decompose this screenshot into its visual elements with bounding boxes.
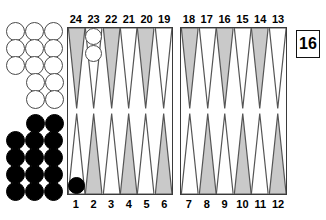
point-number-20: 20: [138, 12, 156, 26]
point-number-13: 13: [269, 12, 287, 26]
point-triangle-10: [234, 111, 252, 194]
point-triangle-1: [68, 111, 85, 194]
checker-pile-row: [6, 90, 64, 107]
point-triangle-5: [137, 111, 154, 194]
point-15[interactable]: [234, 28, 252, 111]
point-11[interactable]: [251, 111, 269, 194]
point-numbers-top-left: 242322212019: [67, 12, 173, 26]
point-23[interactable]: [85, 28, 102, 111]
point-number-17: 17: [198, 12, 216, 26]
quadrant-top-right: [181, 28, 286, 111]
point-20[interactable]: [137, 28, 154, 111]
point-13[interactable]: [269, 28, 287, 111]
quadrant-bottom-left: [68, 111, 172, 194]
point-triangle-14: [251, 28, 269, 111]
score-box-value: 16: [299, 35, 317, 53]
point-number-24: 24: [67, 12, 85, 26]
point-number-12: 12: [269, 197, 287, 211]
point-triangle-6: [155, 111, 172, 194]
point-triangle-22: [103, 28, 120, 111]
checker-pile-row: [6, 114, 64, 131]
point-24[interactable]: [68, 28, 85, 111]
point-triangle-4: [120, 111, 137, 194]
point-number-6: 6: [155, 197, 173, 211]
checker-pile-row: [6, 131, 64, 148]
backgammon-diagram: 242322212019 181716151413 123456 7891011…: [0, 0, 326, 220]
point-number-22: 22: [102, 12, 120, 26]
point-17[interactable]: [199, 28, 217, 111]
board-frame: [67, 27, 287, 195]
point-triangle-9: [216, 111, 234, 194]
quadrant-bottom-right: [181, 111, 286, 194]
point-triangle-19: [155, 28, 172, 111]
point-triangle-24: [68, 28, 85, 111]
checker-black[interactable]: [25, 182, 44, 201]
checker-pile-row: [6, 22, 64, 39]
board-half-right: [180, 27, 287, 195]
checker-pile-row: [6, 73, 64, 90]
point-2[interactable]: [85, 111, 102, 194]
point-18[interactable]: [181, 28, 199, 111]
board-half-left: [67, 27, 173, 195]
point-number-9: 9: [216, 197, 234, 211]
point-number-21: 21: [120, 12, 138, 26]
point-number-19: 19: [155, 12, 173, 26]
point-number-4: 4: [120, 197, 138, 211]
point-number-14: 14: [251, 12, 269, 26]
point-numbers-bottom-right: 789101112: [180, 197, 287, 211]
checker-black[interactable]: [6, 182, 25, 201]
point-triangle-3: [103, 111, 120, 194]
point-12[interactable]: [269, 111, 287, 194]
point-triangle-13: [269, 28, 287, 111]
point-21[interactable]: [120, 28, 137, 111]
point-number-16: 16: [216, 12, 234, 26]
point-10[interactable]: [234, 111, 252, 194]
point-number-11: 11: [251, 197, 269, 211]
off-board-black-checkers: [6, 114, 64, 199]
point-4[interactable]: [120, 111, 137, 194]
point-triangle-20: [137, 28, 154, 111]
checker-pile-row: [6, 56, 64, 73]
point-1[interactable]: [68, 111, 85, 194]
checker-pile-row: [6, 39, 64, 56]
point-numbers-bottom-left: 123456: [67, 197, 173, 211]
checker-white[interactable]: [45, 90, 64, 109]
point-triangle-15: [234, 28, 252, 111]
score-box: 16: [296, 30, 320, 58]
checker-white[interactable]: [6, 56, 25, 75]
point-5[interactable]: [137, 111, 154, 194]
point-triangle-17: [199, 28, 217, 111]
point-triangle-8: [199, 111, 217, 194]
point-number-18: 18: [180, 12, 198, 26]
point-3[interactable]: [103, 111, 120, 194]
checker-pile-row: [6, 182, 64, 199]
point-triangle-21: [120, 28, 137, 111]
point-triangle-7: [181, 111, 199, 194]
point-triangle-16: [216, 28, 234, 111]
point-numbers-top-right: 181716151413: [180, 12, 287, 26]
point-6[interactable]: [155, 111, 172, 194]
point-8[interactable]: [199, 111, 217, 194]
point-number-10: 10: [233, 197, 251, 211]
checker-white[interactable]: [26, 90, 45, 109]
point-number-15: 15: [233, 12, 251, 26]
point-number-5: 5: [138, 197, 156, 211]
point-number-23: 23: [85, 12, 103, 26]
checker-black[interactable]: [44, 182, 63, 201]
point-number-1: 1: [67, 197, 85, 211]
point-16[interactable]: [216, 28, 234, 111]
checker-pile-row: [6, 148, 64, 165]
point-7[interactable]: [181, 111, 199, 194]
checker-pile-row: [6, 165, 64, 182]
point-19[interactable]: [155, 28, 172, 111]
point-22[interactable]: [103, 28, 120, 111]
point-14[interactable]: [251, 28, 269, 111]
quadrant-top-left: [68, 28, 172, 111]
point-9[interactable]: [216, 111, 234, 194]
off-board-white-checkers: [6, 22, 64, 107]
point-number-3: 3: [102, 197, 120, 211]
point-triangle-23: [85, 28, 102, 111]
point-number-2: 2: [85, 197, 103, 211]
point-number-7: 7: [180, 197, 198, 211]
point-triangle-18: [181, 28, 199, 111]
